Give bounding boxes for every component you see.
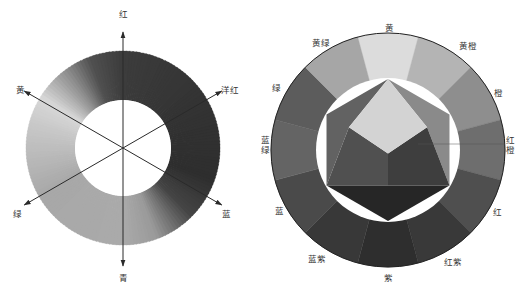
- label-yellow-orange: 黄橙: [459, 41, 477, 51]
- label-red: 红: [493, 207, 502, 217]
- label-green: 绿: [13, 209, 22, 219]
- label-red-orange: 红橙: [506, 135, 515, 155]
- label-orange: 橙: [494, 88, 503, 98]
- label-blue: 蓝: [275, 206, 284, 216]
- color-wheels-figure: 红 洋红 蓝 青 绿 黄 黄 黄橙 橙 红橙 红 红紫 紫 蓝紫 蓝 蓝绿 绿 …: [0, 0, 527, 293]
- label-yellow: 黄: [16, 85, 25, 95]
- label-violet: 紫: [384, 273, 393, 283]
- label-magenta: 洋红: [221, 85, 239, 95]
- label-blue-green: 蓝绿: [261, 135, 270, 155]
- right-color-wheel: 黄 黄橙 橙 红橙 红 红紫 紫 蓝紫 蓝 蓝绿 绿 黄绿: [261, 23, 515, 283]
- label-blue-violet: 蓝紫: [308, 254, 326, 264]
- label-cyan: 青: [119, 273, 128, 283]
- label-red: 红: [119, 9, 128, 19]
- label-blue: 蓝: [222, 209, 231, 219]
- label-yellow: 黄: [385, 23, 394, 33]
- label-green: 绿: [272, 83, 281, 93]
- left-color-wheel: 红 洋红 蓝 青 绿 黄: [13, 9, 240, 283]
- label-red-violet: 红紫: [444, 257, 462, 267]
- label-yellow-green: 黄绿: [312, 38, 330, 48]
